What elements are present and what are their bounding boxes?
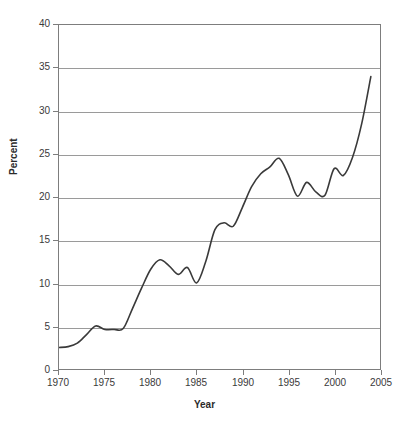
- y-tick-mark: [53, 284, 58, 285]
- x-tick-label: 2005: [358, 378, 404, 388]
- x-tick-label: 1995: [266, 378, 312, 388]
- y-tick-label: 15: [10, 235, 50, 245]
- x-tick-mark: [243, 370, 244, 375]
- x-tick-label: 1980: [127, 378, 173, 388]
- series-line: [59, 77, 371, 348]
- x-tick-label: 1990: [220, 378, 266, 388]
- x-axis-title: Year: [0, 399, 409, 410]
- x-tick-label: 1975: [81, 378, 127, 388]
- x-tick-mark: [289, 370, 290, 375]
- y-tick-label: 40: [10, 19, 50, 29]
- y-tick-label: 20: [10, 192, 50, 202]
- y-tick-label: 0: [10, 365, 50, 375]
- y-tick-label: 30: [10, 106, 50, 116]
- data-series-layer: [59, 25, 380, 369]
- y-tick-label: 10: [10, 279, 50, 289]
- x-tick-label: 1985: [173, 378, 219, 388]
- x-tick-mark: [335, 370, 336, 375]
- y-tick-label: 5: [10, 322, 50, 332]
- x-tick-mark: [58, 370, 59, 375]
- x-tick-label: 2000: [312, 378, 358, 388]
- y-tick-mark: [53, 67, 58, 68]
- x-tick-mark: [196, 370, 197, 375]
- y-tick-mark: [53, 197, 58, 198]
- x-tick-mark: [150, 370, 151, 375]
- y-tick-mark: [53, 327, 58, 328]
- y-tick-label: 35: [10, 62, 50, 72]
- x-tick-label: 1970: [35, 378, 81, 388]
- plot-area: [58, 24, 381, 370]
- x-tick-mark: [104, 370, 105, 375]
- y-tick-mark: [53, 24, 58, 25]
- x-tick-mark: [381, 370, 382, 375]
- y-tick-mark: [53, 154, 58, 155]
- line-chart: 0510152025303540 19701975198019851990199…: [0, 0, 409, 421]
- y-tick-mark: [53, 111, 58, 112]
- y-axis-title: Percent: [8, 138, 19, 175]
- series-percent: [59, 25, 380, 369]
- y-tick-mark: [53, 240, 58, 241]
